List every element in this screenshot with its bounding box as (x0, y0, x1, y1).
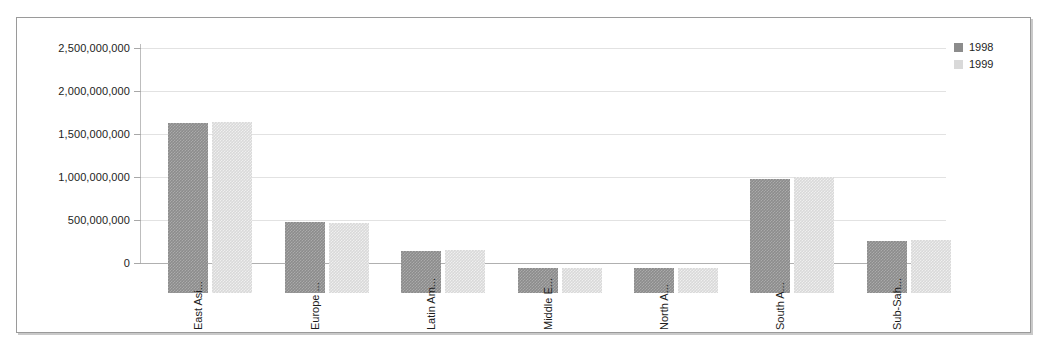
bar-chart-panel: 2,500,000,0002,000,000,0001,500,000,0001… (16, 17, 1031, 333)
x-axis-label-slot: Middle E... (516, 266, 604, 330)
legend-swatch-1999 (954, 60, 963, 69)
bar-group (518, 48, 602, 293)
x-axis-label-slot: Europe ... (283, 266, 371, 330)
x-axis-label-slot: Latin Am... (399, 266, 487, 330)
legend-swatch-1998 (954, 43, 963, 52)
y-axis-tick-label: 0 (22, 258, 130, 269)
x-axis-category-label: South A... (775, 282, 786, 330)
x-axis-labels: East Asi...Europe ...Latin Am...Middle E… (140, 266, 955, 330)
y-axis-tick-label-text: 1,000,000,000 (30, 172, 130, 183)
y-axis-tick-label: 1,500,000,000 (22, 129, 130, 140)
y-axis-tick-label-text: 1,500,000,000 (30, 129, 130, 140)
bar-group (867, 48, 951, 293)
y-axis-tick-label: 1,000,000,000 (22, 172, 130, 183)
x-axis-label-slot: East Asi... (166, 266, 254, 330)
x-axis-category-label: North A... (659, 284, 670, 330)
y-axis-tick-label-text: 500,000,000 (30, 215, 130, 226)
chart-legend: 19981999 (954, 40, 1016, 74)
bar-group (634, 48, 718, 293)
x-axis-category-label: Europe ... (310, 282, 321, 330)
x-axis-category-label: Middle E... (543, 278, 554, 330)
x-axis-label-slot: Sub-Sah... (865, 266, 953, 330)
x-axis-category-label: Latin Am... (426, 278, 437, 330)
y-axis-tick-label: 2,500,000,000 (22, 43, 130, 54)
y-axis-tick-label: 2,000,000,000 (22, 86, 130, 97)
y-axis-tick-label-text: 0 (30, 258, 130, 269)
legend-item-label: 1999 (969, 59, 993, 70)
x-axis-category-label: Sub-Sah... (892, 278, 903, 330)
bar-group (168, 48, 252, 293)
legend-item-1999[interactable]: 1999 (954, 57, 1016, 72)
legend-item-1998[interactable]: 1998 (954, 40, 1016, 55)
x-axis-label-slot: South A... (748, 266, 836, 330)
y-axis-tick-label: 500,000,000 (22, 215, 130, 226)
bar-group (285, 48, 369, 293)
x-axis-category-label: East Asi... (193, 281, 204, 330)
legend-item-label: 1998 (969, 42, 993, 53)
plot-area (140, 48, 955, 293)
y-axis-tick-label-text: 2,500,000,000 (30, 43, 130, 54)
bar-group (401, 48, 485, 293)
bar-group (750, 48, 834, 293)
y-axis-tick-label-text: 2,000,000,000 (30, 86, 130, 97)
x-axis-label-slot: North A... (632, 266, 720, 330)
